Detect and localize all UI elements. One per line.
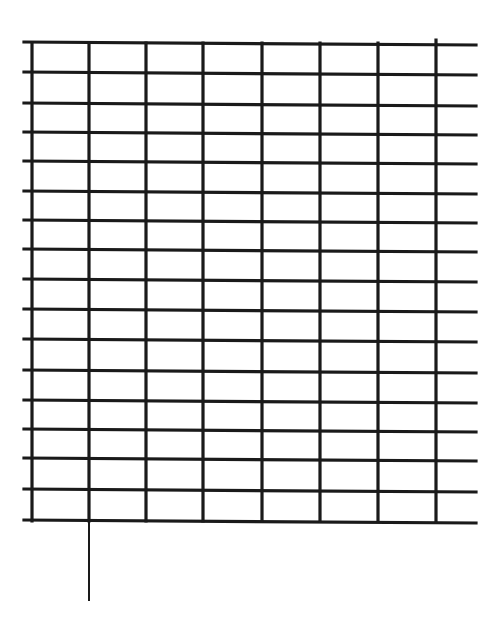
horizontal-line	[24, 161, 476, 164]
horizontal-line	[24, 429, 476, 432]
horizontal-line	[24, 400, 476, 403]
horizontal-line	[24, 132, 476, 135]
horizontal-line	[24, 279, 476, 282]
horizontal-line	[24, 489, 476, 492]
horizontal-line	[24, 339, 476, 342]
horizontal-line	[24, 249, 476, 252]
horizontal-line	[24, 458, 476, 461]
horizontal-line	[24, 220, 476, 223]
horizontal-line	[24, 42, 476, 45]
grid-diagram	[0, 0, 501, 625]
horizontal-line	[24, 309, 476, 312]
horizontal-line	[24, 520, 476, 523]
horizontal-line	[24, 191, 476, 194]
horizontal-lines	[24, 42, 476, 523]
horizontal-line	[24, 370, 476, 373]
horizontal-line	[24, 103, 476, 106]
horizontal-line	[24, 72, 476, 75]
